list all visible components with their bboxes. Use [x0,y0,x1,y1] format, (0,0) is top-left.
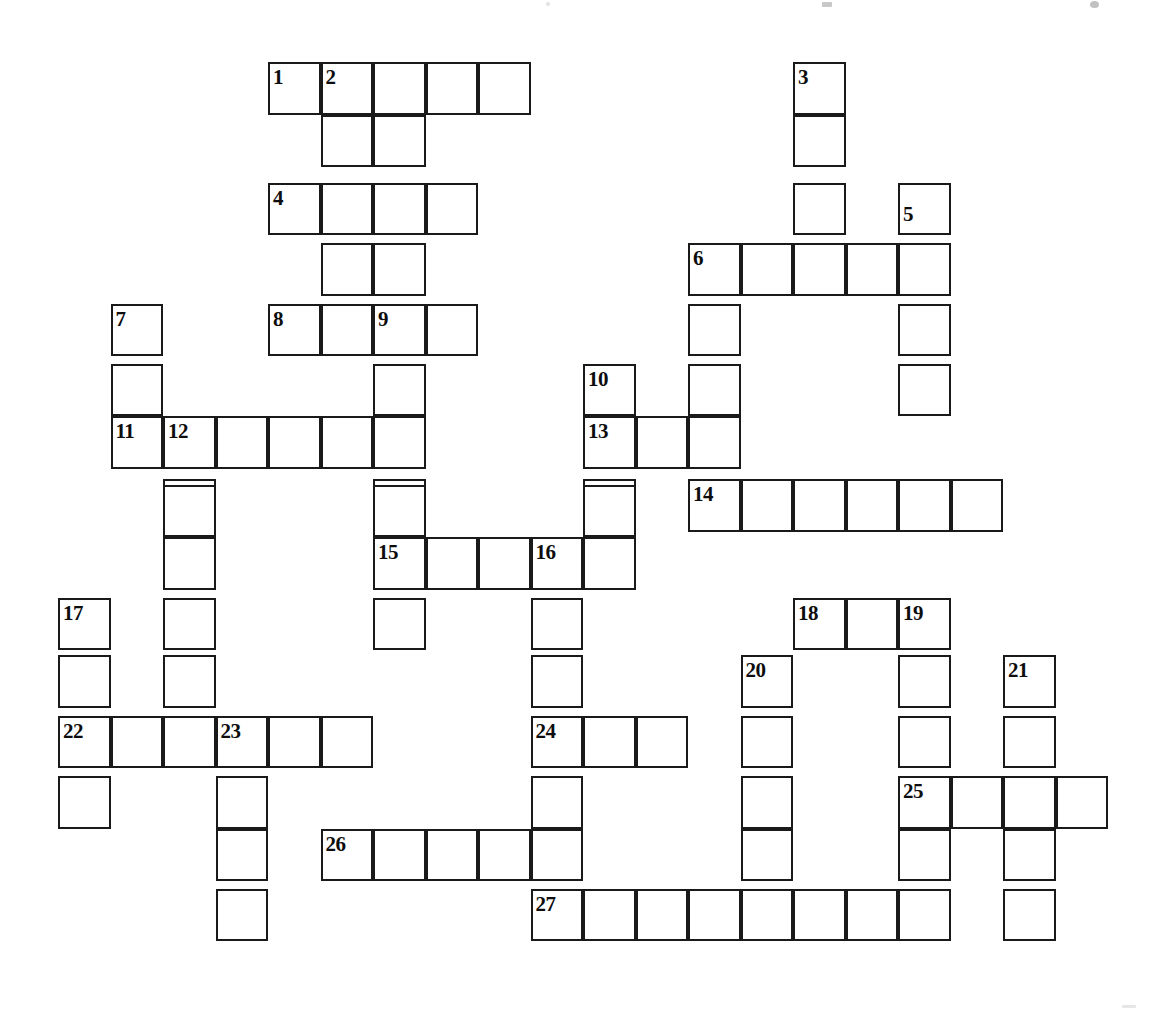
crossword-cell[interactable] [58,655,111,708]
crossword-cell[interactable] [793,62,846,115]
crossword-cell[interactable] [741,829,794,882]
crossword-cell[interactable] [216,776,269,829]
crossword-cell[interactable] [846,243,899,296]
crossword-cell[interactable] [846,479,899,532]
crossword-cell[interactable] [898,304,951,357]
crossword-cell[interactable] [426,62,479,115]
crossword-cell[interactable] [58,776,111,829]
crossword-cell[interactable] [321,716,374,769]
crossword-cell[interactable] [583,364,636,417]
crossword-cell[interactable] [111,716,164,769]
crossword-cell[interactable] [898,716,951,769]
crossword-cell[interactable] [583,485,636,538]
crossword-cell[interactable] [636,416,689,469]
crossword-cell[interactable] [268,416,321,469]
crossword-cell[interactable] [321,115,374,168]
crossword-cell[interactable] [478,537,531,590]
crossword-cell[interactable] [373,183,426,236]
crossword-cell[interactable] [636,716,689,769]
crossword-cell[interactable] [163,416,216,469]
crossword-cell[interactable] [793,479,846,532]
crossword-cell[interactable] [373,115,426,168]
crossword-cell[interactable] [531,655,584,708]
crossword-cell[interactable] [1003,889,1056,942]
crossword-cell[interactable] [268,62,321,115]
crossword-grid[interactable]: 1234567891011121314151617181920212223242… [0,0,1166,1022]
crossword-cell[interactable] [373,364,426,417]
crossword-cell[interactable] [741,655,794,708]
crossword-cell[interactable] [321,243,374,296]
crossword-cell[interactable] [741,716,794,769]
crossword-cell[interactable] [951,776,1004,829]
crossword-cell[interactable] [583,889,636,942]
crossword-cell[interactable] [163,598,216,651]
crossword-cell[interactable] [846,889,899,942]
crossword-cell[interactable] [216,416,269,469]
crossword-cell[interactable] [478,829,531,882]
crossword-cell[interactable] [163,485,216,538]
crossword-cell[interactable] [531,829,584,882]
crossword-cell[interactable] [216,716,269,769]
crossword-cell[interactable] [688,889,741,942]
crossword-cell[interactable] [373,243,426,296]
crossword-cell[interactable] [321,183,374,236]
crossword-cell[interactable] [373,485,426,538]
crossword-cell[interactable] [1003,716,1056,769]
crossword-cell[interactable] [373,62,426,115]
crossword-cell[interactable] [898,889,951,942]
crossword-cell[interactable] [1056,776,1109,829]
crossword-cell[interactable] [741,776,794,829]
crossword-cell[interactable] [426,829,479,882]
crossword-cell[interactable] [688,364,741,417]
crossword-cell[interactable] [268,716,321,769]
crossword-cell[interactable] [1003,655,1056,708]
crossword-cell[interactable] [531,776,584,829]
crossword-cell[interactable] [793,115,846,168]
crossword-cell[interactable] [583,416,636,469]
crossword-cell[interactable] [426,304,479,357]
crossword-cell[interactable] [58,716,111,769]
crossword-cell[interactable] [163,655,216,708]
crossword-cell[interactable] [898,479,951,532]
crossword-cell[interactable] [531,537,584,590]
crossword-cell[interactable] [216,829,269,882]
crossword-cell[interactable] [163,716,216,769]
crossword-cell[interactable] [898,183,951,236]
crossword-cell[interactable] [688,304,741,357]
crossword-cell[interactable] [321,416,374,469]
crossword-cell[interactable] [531,598,584,651]
crossword-cell[interactable] [216,889,269,942]
crossword-cell[interactable] [1003,829,1056,882]
crossword-cell[interactable] [951,479,1004,532]
crossword-cell[interactable] [636,889,689,942]
crossword-cell[interactable] [111,304,164,357]
crossword-cell[interactable] [321,62,374,115]
crossword-cell[interactable] [741,889,794,942]
crossword-cell[interactable] [426,537,479,590]
crossword-cell[interactable] [58,598,111,651]
crossword-cell[interactable] [898,364,951,417]
crossword-cell[interactable] [741,243,794,296]
crossword-cell[interactable] [1003,776,1056,829]
crossword-cell[interactable] [321,829,374,882]
crossword-cell[interactable] [373,537,426,590]
crossword-cell[interactable] [268,183,321,236]
crossword-cell[interactable] [898,655,951,708]
crossword-cell[interactable] [898,243,951,296]
crossword-cell[interactable] [373,598,426,651]
crossword-cell[interactable] [583,537,636,590]
crossword-cell[interactable] [846,598,899,651]
crossword-cell[interactable] [163,537,216,590]
crossword-cell[interactable] [898,776,951,829]
crossword-cell[interactable] [898,598,951,651]
crossword-cell[interactable] [321,304,374,357]
crossword-cell[interactable] [111,364,164,417]
crossword-cell[interactable] [268,304,321,357]
crossword-cell[interactable] [478,62,531,115]
crossword-cell[interactable] [426,183,479,236]
crossword-cell[interactable] [793,598,846,651]
crossword-cell[interactable] [688,479,741,532]
crossword-cell[interactable] [531,889,584,942]
crossword-cell[interactable] [688,243,741,296]
crossword-cell[interactable] [583,716,636,769]
